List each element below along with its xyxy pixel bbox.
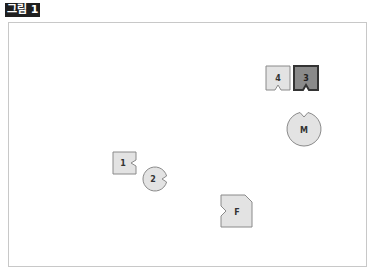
- shape-f-label: F: [234, 208, 239, 217]
- shape-m-label: M: [300, 126, 308, 135]
- shape-4-label: 4: [275, 74, 281, 83]
- shape-f[interactable]: F: [221, 195, 252, 227]
- shape-1-label: 1: [120, 159, 126, 168]
- shape-m[interactable]: M: [287, 113, 321, 147]
- diagram-canvas: 4 3 M 1 2 F: [0, 0, 372, 274]
- shape-2-label: 2: [150, 175, 156, 184]
- shape-2[interactable]: 2: [143, 167, 167, 191]
- shape-3[interactable]: 3: [294, 66, 318, 90]
- shape-3-label: 3: [303, 74, 309, 83]
- shape-4[interactable]: 4: [266, 66, 290, 90]
- shape-1[interactable]: 1: [113, 152, 136, 174]
